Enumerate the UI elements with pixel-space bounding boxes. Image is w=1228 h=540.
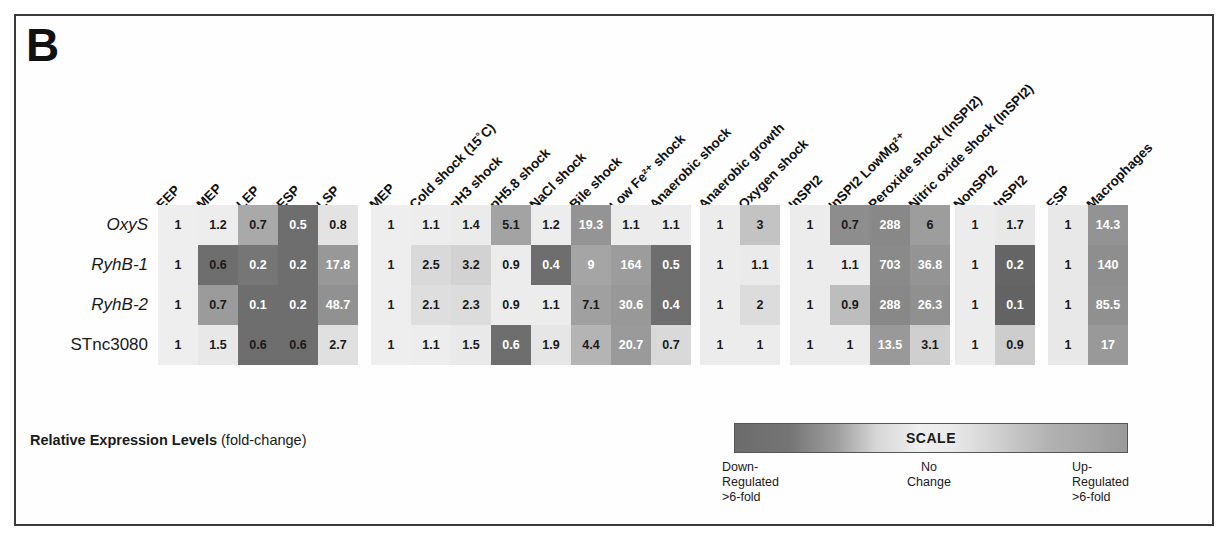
heatmap-cell: 0.9 xyxy=(995,325,1035,365)
scale-up-line3: >6-fold xyxy=(1072,490,1129,505)
heatmap-cell: 1.1 xyxy=(611,205,651,245)
heatmap-cell: 0.8 xyxy=(318,205,358,245)
heatmap-cell: 4.4 xyxy=(571,325,611,365)
heatmap-cell: 1.5 xyxy=(198,325,238,365)
heatmap-cell: 1 xyxy=(955,325,995,365)
heatmap-cell: 0.6 xyxy=(278,325,318,365)
heatmap-cell: 9 xyxy=(571,245,611,285)
heatmap-cell: 0.9 xyxy=(491,285,531,325)
heatmap-cell: 1 xyxy=(1048,285,1088,325)
scale-down-line1: Down- xyxy=(722,460,779,475)
heatmap-cell: 703 xyxy=(870,245,910,285)
heatmap-cell: 0.1 xyxy=(238,285,278,325)
heatmap-cell: 1.1 xyxy=(740,245,780,285)
heatmap-cell: 1.2 xyxy=(198,205,238,245)
heatmap-cell: 1 xyxy=(1048,205,1088,245)
heatmap-cell: 1 xyxy=(830,325,870,365)
scale-up-line1: Up- xyxy=(1072,460,1129,475)
heatmap-cell: 1 xyxy=(371,245,411,285)
heatmap-cell: 2.5 xyxy=(411,245,451,285)
heatmap-cell: 1.1 xyxy=(411,325,451,365)
heatmap-cell: 3.1 xyxy=(910,325,950,365)
heatmap-cell: 1 xyxy=(371,285,411,325)
heatmap-cell: 0.6 xyxy=(238,325,278,365)
heatmap-cell: 1 xyxy=(1048,325,1088,365)
row-label-oxys: OxyS xyxy=(30,215,148,235)
heatmap-cell: 14.3 xyxy=(1088,205,1128,245)
heatmap-cell: 1 xyxy=(371,325,411,365)
heatmap-cell: 1.9 xyxy=(531,325,571,365)
scale-caption-up: Up- Regulated >6-fold xyxy=(1072,460,1129,505)
scale-mid-line2: Change xyxy=(884,475,974,490)
heatmap-cell: 1 xyxy=(700,325,740,365)
heatmap-cell: 7.1 xyxy=(571,285,611,325)
heatmap-cell: 1 xyxy=(158,325,198,365)
heatmap-cell: 0.2 xyxy=(238,245,278,285)
heatmap-cell: 288 xyxy=(870,205,910,245)
heatmap-cell: 0.5 xyxy=(651,245,691,285)
legend-caption-bold: Relative Expression Levels xyxy=(30,432,217,448)
scale-down-line2: Regulated xyxy=(722,475,779,490)
heatmap-cell: 1 xyxy=(790,325,830,365)
heatmap-cell: 0.7 xyxy=(651,325,691,365)
heatmap-grid: OxySRyhB-1RyhB-2STnc3080EEPMEPLEPESPLSP1… xyxy=(0,0,1228,540)
row-label-ryhb-1: RyhB-1 xyxy=(30,255,148,275)
figure-panel-b: B OxySRyhB-1RyhB-2STnc3080EEPMEPLEPESPLS… xyxy=(0,0,1228,540)
scale-down-line3: >6-fold xyxy=(722,490,779,505)
heatmap-cell: 1 xyxy=(371,205,411,245)
heatmap-cell: 0.9 xyxy=(830,285,870,325)
heatmap-cell: 2 xyxy=(740,285,780,325)
scale-caption-down: Down- Regulated >6-fold xyxy=(722,460,779,505)
heatmap-cell: 6 xyxy=(910,205,950,245)
heatmap-cell: 0.6 xyxy=(491,325,531,365)
heatmap-cell: 1.1 xyxy=(830,245,870,285)
heatmap-cell: 1.5 xyxy=(451,325,491,365)
scale-mid-line1: No xyxy=(884,460,974,475)
heatmap-cell: 3.2 xyxy=(451,245,491,285)
heatmap-cell: 3 xyxy=(740,205,780,245)
heatmap-cell: 1.1 xyxy=(411,205,451,245)
heatmap-cell: 1.2 xyxy=(531,205,571,245)
heatmap-cell: 1 xyxy=(740,325,780,365)
heatmap-cell: 1 xyxy=(790,205,830,245)
heatmap-cell: 17.8 xyxy=(318,245,358,285)
heatmap-cell: 0.4 xyxy=(531,245,571,285)
heatmap-cell: 1 xyxy=(790,285,830,325)
heatmap-cell: 20.7 xyxy=(611,325,651,365)
scale-bar-label: SCALE xyxy=(735,424,1127,452)
heatmap-cell: 48.7 xyxy=(318,285,358,325)
heatmap-cell: 0.1 xyxy=(995,285,1035,325)
heatmap-cell: 19.3 xyxy=(571,205,611,245)
heatmap-cell: 288 xyxy=(870,285,910,325)
heatmap-cell: 2.7 xyxy=(318,325,358,365)
heatmap-cell: 0.7 xyxy=(830,205,870,245)
heatmap-cell: 1 xyxy=(700,285,740,325)
heatmap-cell: 0.2 xyxy=(278,245,318,285)
heatmap-cell: 1 xyxy=(790,245,830,285)
heatmap-cell: 1 xyxy=(955,205,995,245)
heatmap-cell: 26.3 xyxy=(910,285,950,325)
heatmap-cell: 2.3 xyxy=(451,285,491,325)
heatmap-cell: 13.5 xyxy=(870,325,910,365)
heatmap-cell: 1.1 xyxy=(651,205,691,245)
heatmap-cell: 0.7 xyxy=(198,285,238,325)
heatmap-cell: 140 xyxy=(1088,245,1128,285)
heatmap-cell: 85.5 xyxy=(1088,285,1128,325)
legend-caption: Relative Expression Levels (fold-change) xyxy=(30,432,306,448)
heatmap-cell: 1.7 xyxy=(995,205,1035,245)
heatmap-cell: 0.6 xyxy=(198,245,238,285)
scale-bar: SCALE xyxy=(734,423,1128,453)
heatmap-cell: 0.2 xyxy=(278,285,318,325)
heatmap-cell: 5.1 xyxy=(491,205,531,245)
heatmap-cell: 1 xyxy=(158,205,198,245)
row-label-stnc3080: STnc3080 xyxy=(30,335,148,355)
heatmap-cell: 17 xyxy=(1088,325,1128,365)
heatmap-cell: 1 xyxy=(700,205,740,245)
legend-caption-rest: (fold-change) xyxy=(217,432,306,448)
heatmap-cell: 0.9 xyxy=(491,245,531,285)
column-header: Macrophages xyxy=(1083,140,1155,212)
scale-up-line2: Regulated xyxy=(1072,475,1129,490)
heatmap-cell: 2.1 xyxy=(411,285,451,325)
heatmap-cell: 1 xyxy=(158,245,198,285)
heatmap-cell: 1 xyxy=(158,285,198,325)
